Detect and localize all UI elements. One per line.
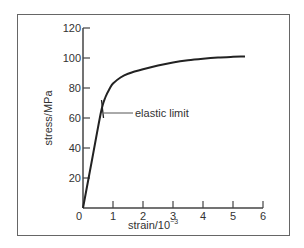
x-tick-label: 5 <box>230 210 236 222</box>
y-tick-label: 100 <box>63 52 81 64</box>
y-tick-label: 60 <box>69 112 81 124</box>
y-tick-label: 120 <box>63 22 81 34</box>
x-axis-label-base: strain/10 <box>128 219 170 231</box>
x-axis-label-exponent: −3 <box>170 218 178 225</box>
y-tick-label: 20 <box>69 172 81 184</box>
elastic-limit-annotation: elastic limit <box>102 100 189 119</box>
stress-strain-chart: 012345620406080100120 elastic limit stre… <box>0 0 304 248</box>
y-tick-label: 40 <box>69 142 81 154</box>
x-axis-label: strain/10−3 <box>128 218 178 231</box>
x-tick-label: 4 <box>200 210 206 222</box>
x-tick-label: 6 <box>260 210 266 222</box>
y-axis-label: stress/MPa <box>42 90 54 146</box>
axes: 012345620406080100120 <box>63 22 266 222</box>
elastic-limit-label: elastic limit <box>135 107 189 119</box>
stress-strain-line <box>83 57 245 209</box>
x-tick-label: 0 <box>76 210 82 222</box>
y-tick-label: 80 <box>69 82 81 94</box>
x-tick-label: 1 <box>110 210 116 222</box>
chart-svg: 012345620406080100120 elastic limit stre… <box>0 0 304 248</box>
